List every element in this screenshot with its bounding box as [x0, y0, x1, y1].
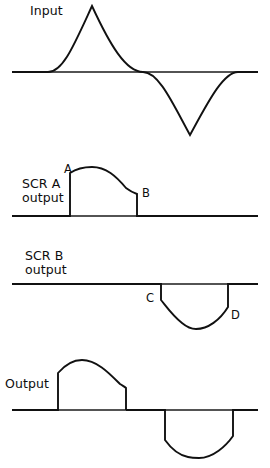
- trace-group-output: [12, 360, 258, 458]
- row-label-scr-b-output-line1: SCR B: [25, 249, 63, 263]
- row-label-input: Input: [30, 4, 63, 18]
- point-label-c: C: [146, 292, 154, 304]
- point-label-b: B: [142, 187, 150, 199]
- point-label-a: A: [64, 163, 72, 175]
- trace-group-scr-b-output: [12, 284, 258, 329]
- row-label-scr-b-output-line2: output: [25, 263, 67, 277]
- row-label-output: Output: [5, 377, 49, 391]
- trace-group-input: [12, 6, 258, 135]
- point-label-d: D: [231, 309, 240, 321]
- waveform-output-negative: [126, 410, 258, 458]
- waveform-canvas: [0, 0, 270, 468]
- waveform-input: [12, 6, 258, 135]
- waveform-diagram: Input SCR A output SCR B output Output A…: [0, 0, 270, 468]
- row-label-scr-a-output-line2: output: [22, 191, 64, 205]
- row-label-scr-a-output-line1: SCR A: [22, 177, 60, 191]
- waveform-scr-b-output: [12, 284, 258, 329]
